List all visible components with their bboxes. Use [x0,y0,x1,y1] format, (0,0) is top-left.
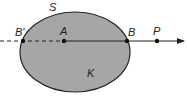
label-p: P [153,25,161,37]
label-b-prime: B' [15,26,25,38]
point-a [62,39,66,43]
point-b-prime [21,39,25,43]
body-k-ellipse [20,12,130,92]
diagram-canvas: S B' A B P K [0,0,187,96]
label-s: S [49,1,57,13]
label-a: A [59,25,67,37]
point-b [125,39,129,43]
point-p [155,39,159,43]
label-b: B [128,26,135,38]
label-k: K [87,67,95,79]
